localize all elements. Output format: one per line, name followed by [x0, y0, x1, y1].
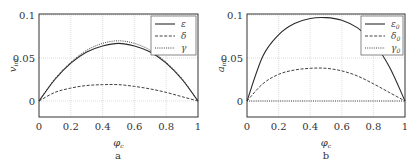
chart-panel-b: 00.20.40.60.8100.050.1φcainibε0δ0γ0 [215, 10, 408, 162]
y-tick-label: 0.1 [19, 10, 35, 21]
y-tick-label: 0.1 [227, 10, 243, 21]
x-axis-label: φc [113, 137, 124, 149]
chart-panel-a: 00.20.40.60.8100.050.1φcviniaεδγ [7, 10, 201, 162]
x-tick-label: 0.4 [95, 121, 111, 132]
x-tick-label: 0.6 [126, 121, 142, 132]
x-tick-label: 0.8 [365, 121, 381, 132]
x-tick-label: 0.2 [63, 121, 79, 132]
x-tick-label: 1 [402, 121, 408, 132]
y-axis-label: vini [7, 59, 19, 72]
x-tick-label: 0 [36, 121, 42, 132]
x-tick-label: 0.8 [158, 121, 174, 132]
series-line-1 [247, 68, 405, 101]
x-tick-label: 0.2 [271, 121, 287, 132]
x-tick-label: 1 [195, 121, 201, 132]
x-tick-label: 0.6 [334, 121, 350, 132]
x-tick-label: 0 [244, 121, 250, 132]
legend: ε0δ0γ0 [361, 16, 403, 55]
x-tick-label: 0.4 [302, 121, 318, 132]
y-axis-label: aini [215, 59, 227, 73]
legend: εδγ [151, 16, 196, 55]
panel-caption: b [323, 150, 329, 161]
x-axis-label: φc [321, 137, 332, 149]
legend-label-1: δ [181, 31, 186, 41]
legend-label-2: γ [181, 43, 187, 53]
y-tick-label: 0 [29, 96, 35, 107]
figure: 00.20.40.60.8100.050.1φcviniaεδγ00.20.40… [0, 0, 410, 164]
legend-label-0: ε [181, 19, 186, 29]
panel-caption: a [115, 150, 121, 161]
series-line-1 [39, 84, 198, 101]
y-tick-label: 0 [237, 96, 243, 107]
